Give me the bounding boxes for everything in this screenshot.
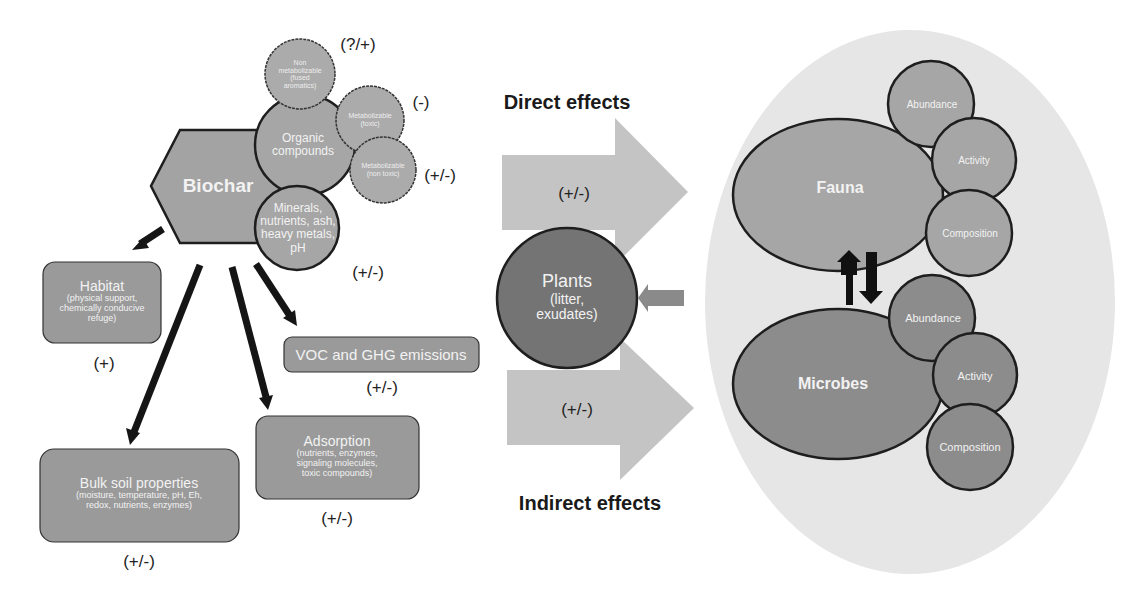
minerals-line: pH (260, 241, 335, 254)
mn-line: Metabolizable (361, 162, 404, 170)
indirect-effects-heading: Indirect effects (519, 492, 661, 515)
adsorption-detail: toxic compounds) (296, 470, 377, 480)
minerals-label: Minerals, nutrients, ash, heavy metals, … (260, 202, 335, 255)
non-metabolizable-label: Non metabolizable (fused aromatics) (278, 59, 321, 90)
microbes-title: Microbes (798, 375, 868, 393)
plants-detail: exudates) (536, 307, 597, 322)
microbes-composition: Composition (939, 441, 1000, 453)
sign-direct: (+/-) (558, 184, 590, 204)
mt-line: Metabolizable (348, 112, 391, 120)
nm-line: Non (278, 59, 321, 67)
sign-adsorption: (+/-) (321, 509, 353, 529)
nm-line: (fused (278, 74, 321, 82)
fauna-activity: Activity (958, 155, 990, 166)
habitat-detail: refuge) (59, 315, 144, 325)
biochar-title: Biochar (183, 176, 254, 197)
nm-line: aromatics) (278, 82, 321, 90)
sign-non-metabolizable: (?/+) (340, 35, 375, 55)
microbes-abundance: Abundance (905, 312, 961, 324)
bulk-soil-label: Bulk soil properties (moisture, temperat… (76, 476, 202, 511)
plants-title: Plants (536, 272, 597, 292)
adsorption-label: Adsorption (nutrients, enzymes, signalin… (296, 434, 377, 479)
adsorption-title: Adsorption (296, 434, 377, 449)
voc-label: VOC and GHG emissions (296, 347, 467, 364)
mt-line: (toxic) (348, 120, 391, 128)
plants-label: Plants (litter, exudates) (536, 272, 597, 323)
mn-line: (non toxic) (361, 170, 404, 178)
sign-indirect: (+/-) (561, 400, 593, 420)
fauna-abundance: Abundance (907, 99, 958, 110)
metabolizable-nontoxic-label: Metabolizable (non toxic) (361, 162, 404, 177)
nm-line: metabolizable (278, 66, 321, 74)
metabolizable-toxic-label: Metabolizable (toxic) (348, 112, 391, 127)
sign-metabolizable-toxic: (-) (413, 93, 430, 113)
plants-detail: (litter, (536, 292, 597, 307)
bulk-soil-title: Bulk soil properties (76, 476, 202, 491)
sign-minerals: (+/-) (352, 263, 384, 283)
organic-compounds-label: Organic compounds (263, 132, 343, 158)
fauna-title: Fauna (816, 179, 863, 197)
bulk-soil-detail: redox, nutrients, enzymes) (76, 502, 202, 512)
habitat-title: Habitat (59, 279, 144, 294)
direct-effects-heading: Direct effects (504, 91, 631, 114)
microbes-activity: Activity (958, 370, 993, 382)
habitat-label: Habitat (physical support, chemically co… (59, 279, 144, 324)
sign-bulk-soil: (+/-) (123, 552, 155, 572)
feedback-arrow (638, 284, 684, 312)
sign-voc: (+/-) (366, 378, 398, 398)
minerals-line: heavy metals, (260, 228, 335, 241)
sign-habitat: (+) (93, 354, 114, 374)
fauna-composition: Composition (942, 228, 998, 239)
sign-metabolizable-nontoxic: (+/-) (424, 166, 456, 186)
